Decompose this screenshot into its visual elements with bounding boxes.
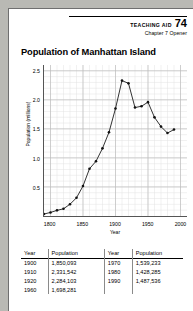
population-line-chart: Population (millions) 0.51.01.52.02.5 Ye… <box>19 61 191 241</box>
x-tick-label: 1800 <box>44 221 56 227</box>
cell-year-right: 1990 <box>104 276 132 285</box>
chapter-label: Chapter 7 Opener <box>69 30 187 36</box>
cell-year-right <box>104 285 132 294</box>
x-tick-label: 1900 <box>109 221 121 227</box>
data-table: Year Population Year Population 19001,85… <box>21 249 183 294</box>
col-year-left: Year <box>21 249 48 258</box>
teaching-aid-line: Teaching Aid 74 <box>69 18 187 29</box>
cell-year-left: 1920 <box>21 276 48 285</box>
cell-population-left: 1,850,093 <box>48 258 99 267</box>
data-point <box>147 101 150 104</box>
cell-population-right <box>132 285 183 294</box>
table-header: Year Population Year Population <box>21 249 183 258</box>
cell-population-right: 1,487,536 <box>132 276 183 285</box>
data-point <box>108 131 111 134</box>
data-point <box>121 79 124 82</box>
cell-year-left: 1960 <box>21 285 48 294</box>
teaching-aid-number: 74 <box>175 18 187 29</box>
cell-year-right: 1980 <box>104 268 132 277</box>
teaching-aid-label: Teaching Aid <box>130 23 171 28</box>
data-point <box>95 160 98 163</box>
y-axis-ticks: 0.51.01.52.02.5 <box>19 61 40 221</box>
teaching-aid-page: Teaching Aid 74 Chapter 7 Opener Populat… <box>8 8 193 311</box>
data-point <box>62 208 65 211</box>
data-point <box>44 213 45 216</box>
cell-population-left: 1,698,281 <box>48 285 99 294</box>
table-row: 19202,284,10319901,487,536 <box>21 276 183 285</box>
data-point <box>69 203 72 206</box>
y-tick-label: 2.5 <box>24 68 40 74</box>
page-title: Population of Manhattan Island <box>21 47 156 57</box>
population-data-table: Year Population Year Population 19001,85… <box>21 249 183 294</box>
table-row: 19601,698,281 <box>21 285 183 294</box>
table-row: 19001,850,09319701,539,233 <box>21 258 183 267</box>
cell-population-right: 1,428,285 <box>132 268 183 277</box>
table-body: 19001,850,09319701,539,23319102,331,5421… <box>21 258 183 294</box>
y-tick-label: 1.0 <box>24 156 40 162</box>
header-row: Year Population Year Population <box>21 249 183 258</box>
data-point <box>160 125 163 128</box>
data-point <box>127 82 130 85</box>
table-row: 19102,331,54219801,428,285 <box>21 268 183 277</box>
data-point <box>49 211 52 214</box>
data-point <box>153 116 156 119</box>
y-tick-label: 0.5 <box>24 185 40 191</box>
x-tick-label: 1850 <box>76 221 88 227</box>
data-point <box>101 147 104 150</box>
data-point <box>56 209 59 212</box>
data-point <box>88 167 91 170</box>
header-rule <box>69 16 187 17</box>
cell-population-left: 2,284,103 <box>48 276 99 285</box>
data-point <box>140 105 143 108</box>
x-tick-label: 1950 <box>142 221 154 227</box>
cell-year-right: 1970 <box>104 258 132 267</box>
data-point <box>75 197 78 200</box>
cell-population-right: 1,539,233 <box>132 258 183 267</box>
cell-year-left: 1910 <box>21 268 48 277</box>
cell-year-left: 1900 <box>21 258 48 267</box>
col-population-left: Population <box>48 249 99 258</box>
x-tick-label: 2000 <box>175 221 187 227</box>
data-point <box>114 107 117 110</box>
x-axis-label: Year <box>43 229 187 235</box>
col-population-right: Population <box>132 249 183 258</box>
data-point <box>166 132 169 135</box>
page-header: Teaching Aid 74 Chapter 7 Opener <box>69 16 187 36</box>
y-tick-label: 2.0 <box>24 97 40 103</box>
col-year-right: Year <box>104 249 132 258</box>
y-tick-label: 1.5 <box>24 126 40 132</box>
cell-population-left: 2,331,542 <box>48 268 99 277</box>
chart-svg <box>44 65 187 216</box>
data-point <box>173 128 176 131</box>
data-point <box>82 185 85 188</box>
plot-area <box>43 65 187 217</box>
data-point <box>134 106 137 109</box>
